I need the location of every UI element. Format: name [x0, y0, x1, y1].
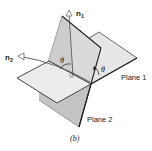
theta-planes-label: θ: [101, 65, 105, 74]
figure-caption: (b): [70, 134, 80, 143]
normal-2-arrowhead-icon: [18, 53, 24, 60]
normal-1-label: n1: [76, 9, 84, 19]
theta-normals-label: θ: [60, 56, 64, 65]
normal-1-arrowhead-icon: [66, 10, 72, 16]
plane-2-label: Plane 2: [87, 115, 112, 124]
normal-2-label: n2: [5, 53, 13, 63]
intersecting-planes-diagram: n1 n2 θ θ Plane 1 Plane 2 (b): [0, 0, 152, 151]
plane-1-label: Plane 1: [121, 73, 146, 82]
